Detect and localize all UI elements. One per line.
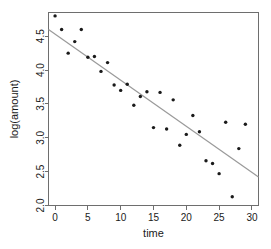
- y-tick-label: 4.5: [35, 29, 46, 43]
- x-tick-label: 15: [148, 212, 160, 223]
- x-axis-title: time: [143, 227, 164, 239]
- data-point: [152, 126, 155, 129]
- data-point: [211, 162, 214, 165]
- data-point: [66, 51, 69, 54]
- data-point: [145, 90, 148, 93]
- x-tick-label: 5: [85, 212, 91, 223]
- x-tick-label: 10: [115, 212, 127, 223]
- x-axis: 051015202530: [52, 206, 258, 223]
- y-axis: 2.02.53.03.54.04.5: [35, 29, 49, 213]
- data-point: [224, 121, 227, 124]
- data-point: [73, 40, 76, 43]
- data-point: [53, 14, 56, 17]
- data-point: [185, 133, 188, 136]
- data-point: [106, 61, 109, 64]
- data-point: [204, 159, 207, 162]
- y-tick-label: 4.0: [35, 63, 46, 77]
- data-point: [139, 95, 142, 98]
- data-point: [165, 127, 168, 130]
- y-tick-label: 3.5: [35, 97, 46, 111]
- data-point: [171, 98, 174, 101]
- data-point: [178, 144, 181, 147]
- regression-line: [49, 29, 259, 177]
- data-point: [132, 104, 135, 107]
- data-point: [80, 28, 83, 31]
- data-point: [99, 70, 102, 73]
- y-tick-label: 3.0: [35, 130, 46, 144]
- data-point: [231, 195, 234, 198]
- data-point: [191, 114, 194, 117]
- x-tick-label: 25: [214, 212, 226, 223]
- data-point: [60, 28, 63, 31]
- data-point: [237, 147, 240, 150]
- data-point: [244, 123, 247, 126]
- x-tick-label: 30: [246, 212, 258, 223]
- chart-canvas: 0510152025302.02.53.03.54.04.5timelog(am…: [0, 0, 271, 249]
- data-point: [93, 55, 96, 58]
- x-tick-label: 0: [52, 212, 58, 223]
- data-point: [112, 83, 115, 86]
- data-point: [126, 83, 129, 86]
- y-tick-label: 2.0: [35, 198, 46, 212]
- scatter-plot-figure: 0510152025302.02.53.03.54.04.5timelog(am…: [0, 0, 271, 249]
- plot-frame: [49, 13, 259, 206]
- y-axis-title: log(amount): [8, 80, 20, 139]
- y-tick-label: 2.5: [35, 164, 46, 178]
- data-point: [119, 89, 122, 92]
- x-tick-label: 20: [181, 212, 193, 223]
- data-point: [158, 91, 161, 94]
- data-point: [217, 172, 220, 175]
- data-point: [198, 130, 201, 133]
- data-series-0: [53, 14, 247, 198]
- data-point: [86, 55, 89, 58]
